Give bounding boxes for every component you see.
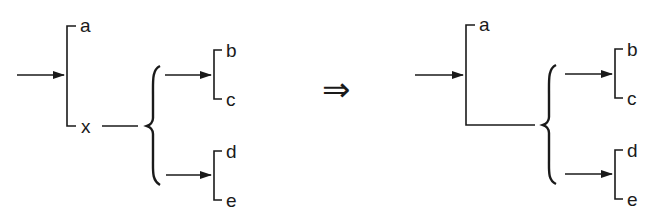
main-bracket: [466, 25, 535, 125]
label-a: a: [80, 15, 91, 36]
bracket-de: [214, 151, 222, 200]
label-c: c: [226, 89, 236, 110]
label-e: e: [627, 189, 638, 210]
right-diagram: a b c d e: [415, 14, 638, 210]
bracket-bc: [615, 49, 623, 98]
label-d: d: [627, 140, 638, 161]
label-e: e: [226, 190, 237, 211]
label-b: b: [627, 39, 638, 60]
label-d: d: [226, 141, 237, 162]
label-c: c: [627, 88, 637, 109]
curly-brace: [543, 65, 556, 184]
diagram-canvas: a x b c d e ⇒ a b c d e: [0, 0, 652, 221]
label-b: b: [226, 40, 237, 61]
bracket-de: [615, 150, 623, 199]
curly-brace: [147, 66, 160, 185]
left-diagram: a x b c d e: [17, 15, 237, 211]
label-a: a: [479, 14, 490, 35]
main-bracket: [67, 26, 76, 126]
implies-arrow-icon: ⇒: [322, 69, 351, 109]
label-x: x: [81, 116, 91, 137]
bracket-bc: [214, 50, 222, 99]
